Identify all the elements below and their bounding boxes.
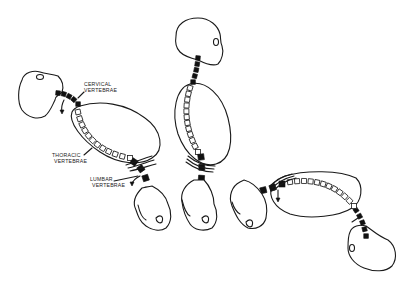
lumbar-vertebra	[198, 154, 205, 161]
inverted-neck-arrow-icon	[352, 218, 358, 222]
thoracic-vertebra	[184, 109, 189, 114]
cervical-vertebra	[195, 61, 200, 66]
cervical-vertebra	[61, 91, 67, 97]
thoracic-vertebra	[308, 179, 314, 185]
flexed-skull-eye	[37, 75, 44, 80]
thoracic-vertebra	[301, 178, 306, 183]
upright-pelvis	[182, 180, 217, 230]
thoracic-vertebra	[119, 153, 125, 159]
upright-ribcage	[175, 83, 231, 164]
inverted-pelvis	[230, 180, 266, 229]
cervical-label-line2: VERTEBRAE	[84, 87, 117, 93]
cervical-vertebra	[360, 220, 366, 226]
inverted-skull	[348, 225, 395, 271]
thoracic-vertebra	[314, 179, 320, 185]
cervical-vertebra	[76, 102, 81, 107]
flexed-neck-arrow-icon	[62, 100, 64, 111]
cervical-vertebra	[194, 67, 199, 72]
cervical-vertebra	[56, 91, 61, 96]
upright-skull-eye	[214, 39, 219, 46]
thoracic-vertebra	[77, 116, 83, 122]
thoracic-vertebra	[185, 120, 191, 126]
thoracic-label-line2: VERTEBRAE	[54, 158, 87, 164]
lumbar-label-line2: VERTEBRAE	[92, 182, 125, 188]
thoracic-vertebra	[184, 103, 189, 108]
flexed-figure	[19, 71, 171, 230]
lumbar-vertebra	[142, 174, 150, 182]
thoracic-vertebra	[75, 109, 81, 115]
cervical-vertebra	[364, 234, 369, 239]
inverted-skull-eye	[350, 245, 355, 252]
cervical-vertebra	[191, 80, 196, 85]
thoracic-vertebra	[184, 114, 189, 119]
thoracic-vertebra	[320, 181, 326, 187]
thoracic-vertebra	[187, 131, 193, 137]
flexed-cervical-vertebrae	[56, 91, 81, 107]
cervical-vertebra	[196, 56, 201, 61]
thoracic-vertebra	[352, 204, 357, 209]
cervical-vertebra	[66, 93, 72, 99]
flexed-lumbar-arrowhead-icon	[130, 182, 134, 186]
thoracic-vertebra	[112, 151, 118, 157]
cervical-vertebra	[192, 73, 198, 79]
thoracic-vertebra	[186, 126, 192, 132]
upright-cervical-vertebrae	[191, 56, 201, 85]
thoracic-vertebra	[187, 85, 193, 91]
inverted-ribcage	[271, 172, 361, 217]
upright-figure	[175, 18, 231, 230]
cervical-vertebra	[362, 226, 367, 231]
thoracic-vertebra	[184, 97, 190, 103]
flexed-neck-arrowhead-icon	[60, 110, 64, 114]
flexed-pelvis	[134, 186, 170, 230]
thoracic-vertebra	[196, 150, 201, 155]
thoracic-vertebra	[294, 179, 299, 184]
inverted-figure	[230, 172, 395, 271]
thoracic-vertebra	[185, 91, 191, 97]
spine-diagram: CERVICAL VERTEBRAE THORACIC VERTEBRAE LU…	[0, 0, 407, 283]
thoracic-label-leader	[84, 148, 92, 155]
